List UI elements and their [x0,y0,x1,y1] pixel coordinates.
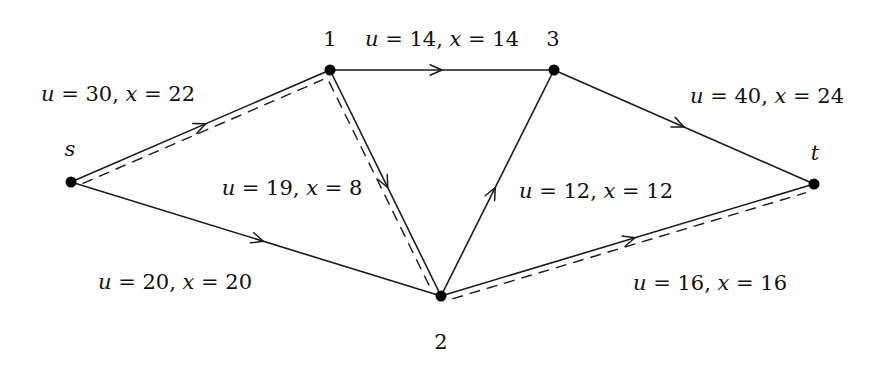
edge-label-2-t: u = 16, x = 16 [633,271,787,295]
flow-network-diagram: s132tu = 30, x = 22u = 20, x = 20u = 14,… [0,0,883,366]
node-2 [436,291,447,302]
edge-label-2-3: u = 12, x = 12 [519,179,673,203]
node-label-t: t [811,141,820,165]
edge-label-s-2: u = 20, x = 20 [98,270,252,294]
node-label-s: s [65,137,76,161]
dashed-path-layer [83,79,807,298]
edge-label-s-1: u = 30, x = 22 [41,82,195,106]
edge-label-3-t: u = 40, x = 24 [690,84,844,108]
node-label-3: 3 [546,27,559,51]
node-label-2: 2 [434,330,447,354]
edge-label-1-3: u = 14, x = 14 [365,27,519,51]
node-t [809,179,820,190]
node-3 [549,65,560,76]
labels-layer: s132tu = 30, x = 22u = 20, x = 20u = 14,… [41,27,844,354]
node-s [66,177,77,188]
edge-label-1-2: u = 19, x = 8 [222,176,363,200]
node-1 [325,65,336,76]
node-label-1: 1 [323,27,336,51]
edge-1-3 [330,65,554,76]
